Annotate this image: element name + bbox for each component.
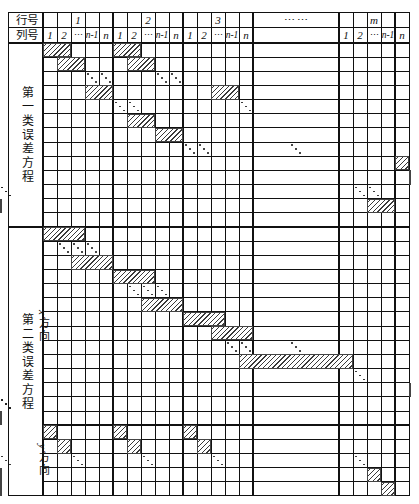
diagonal-ellipsis bbox=[354, 455, 367, 468]
matrix-block-cell bbox=[71, 255, 113, 269]
grid-vline bbox=[367, 12, 368, 496]
group-header-3: 3 bbox=[211, 13, 225, 27]
matrix-block-cell bbox=[43, 425, 57, 439]
diagonal-ellipsis bbox=[72, 455, 85, 468]
matrix-block-cell bbox=[0, 411, 2, 425]
matrix-block-cell bbox=[57, 439, 71, 453]
col-header-n: n bbox=[239, 28, 253, 43]
matrix-block-cell bbox=[155, 128, 183, 142]
diagonal-ellipsis bbox=[240, 101, 253, 114]
group-header-ellipsis: ⋯ ⋯ bbox=[253, 13, 339, 27]
matrix-block-cell bbox=[409, 383, 411, 397]
col-header-e: ⋯ bbox=[367, 28, 381, 43]
matrix-block-cell bbox=[43, 43, 71, 57]
matrix-block-cell bbox=[0, 199, 2, 213]
diagonal-ellipsis bbox=[240, 341, 253, 354]
diagonal-ellipsis bbox=[142, 285, 155, 298]
group-boundary-vline bbox=[338, 12, 340, 496]
diagonal-ellipsis bbox=[128, 101, 141, 114]
group-boundary-vline bbox=[252, 12, 254, 496]
figure-root: 行号 列号 123⋯ ⋯m12⋯n-1n12⋯n-1n12⋯n-1n12⋯n-1… bbox=[0, 0, 419, 504]
col-header-2: 2 bbox=[353, 28, 367, 43]
group-boundary-vline bbox=[394, 12, 396, 496]
matrix-block-cell bbox=[183, 425, 197, 439]
diagonal-ellipsis bbox=[142, 455, 155, 468]
matrix-block-cell bbox=[409, 170, 411, 184]
diagonal-ellipsis bbox=[86, 242, 99, 255]
col-header-n: n bbox=[395, 28, 409, 43]
matrix-block-cell bbox=[239, 354, 353, 368]
diagonal-ellipsis bbox=[100, 72, 113, 85]
grid-vline bbox=[141, 12, 142, 496]
matrix-block-cell bbox=[85, 85, 113, 99]
matrix-block-cell bbox=[183, 312, 225, 326]
matrix-block-cell bbox=[43, 227, 85, 241]
matrix-block-cell bbox=[113, 43, 141, 57]
matrix-block-cell bbox=[197, 439, 211, 453]
diagonal-ellipsis bbox=[86, 72, 99, 85]
matrix-block-cell bbox=[127, 57, 155, 71]
matrix-block-cell bbox=[381, 482, 395, 496]
matrix-block-cell bbox=[113, 270, 155, 284]
matrix-block-cell bbox=[211, 85, 239, 99]
matrix-block-cell bbox=[0, 482, 2, 496]
matrix-block-cell bbox=[367, 468, 381, 482]
grid-vline bbox=[353, 12, 354, 496]
col-header-n: n bbox=[169, 28, 183, 43]
diagonal-ellipsis bbox=[58, 242, 71, 255]
col-header-2: 2 bbox=[127, 28, 141, 43]
diagonal-ellipsis bbox=[114, 101, 127, 114]
diagonal-ellipsis bbox=[290, 143, 303, 156]
col-header-n-1: n-1 bbox=[225, 28, 239, 43]
diagonal-ellipsis bbox=[170, 72, 183, 85]
section-label-first-kind: 第一类误差方程 bbox=[8, 43, 43, 227]
grid-vline bbox=[127, 12, 128, 496]
grid-vline bbox=[381, 12, 382, 496]
matrix-block-cell bbox=[57, 57, 85, 71]
col-header-1: 1 bbox=[43, 28, 57, 43]
col-header-e: ⋯ bbox=[141, 28, 155, 43]
diagonal-ellipsis bbox=[354, 186, 367, 199]
col-header-e: ⋯ bbox=[71, 28, 85, 43]
group-header-m: m bbox=[367, 13, 381, 27]
matrix-block-cell bbox=[127, 114, 155, 128]
group-header-2: 2 bbox=[141, 13, 155, 27]
matrix-block-cell bbox=[113, 425, 127, 439]
grid-vline bbox=[197, 12, 198, 496]
col-number-header-label: 列号 bbox=[10, 28, 43, 43]
diagonal-ellipsis bbox=[156, 285, 169, 298]
diagonal-ellipsis bbox=[368, 186, 381, 199]
col-header-e: ⋯ bbox=[211, 28, 225, 43]
col-header-n-1: n-1 bbox=[381, 28, 395, 43]
col-header-n-1: n-1 bbox=[85, 28, 99, 43]
matrix-block-cell bbox=[141, 298, 183, 312]
col-header-n: n bbox=[99, 28, 113, 43]
diagonal-ellipsis bbox=[184, 143, 197, 156]
diagonal-ellipsis bbox=[354, 370, 367, 383]
matrix-block-cell bbox=[211, 326, 253, 340]
diagonal-ellipsis bbox=[128, 285, 141, 298]
diagonal-ellipsis bbox=[198, 143, 211, 156]
col-header-2: 2 bbox=[197, 28, 211, 43]
matrix-block-cell bbox=[0, 468, 2, 482]
diagonal-ellipsis bbox=[156, 72, 169, 85]
diagonal-ellipsis bbox=[226, 341, 239, 354]
matrix-block-cell bbox=[127, 439, 141, 453]
diagonal-ellipsis bbox=[72, 242, 85, 255]
col-header-1: 1 bbox=[113, 28, 127, 43]
matrix-block-cell bbox=[395, 156, 409, 170]
col-header-1: 1 bbox=[183, 28, 197, 43]
col-header-1: 1 bbox=[339, 28, 353, 43]
diagonal-ellipsis bbox=[290, 341, 303, 354]
diagonal-ellipsis bbox=[212, 455, 225, 468]
col-header-n-1: n-1 bbox=[155, 28, 169, 43]
col-header-2: 2 bbox=[57, 28, 71, 43]
matrix-block-cell bbox=[367, 199, 395, 213]
group-header-1: 1 bbox=[71, 13, 85, 27]
